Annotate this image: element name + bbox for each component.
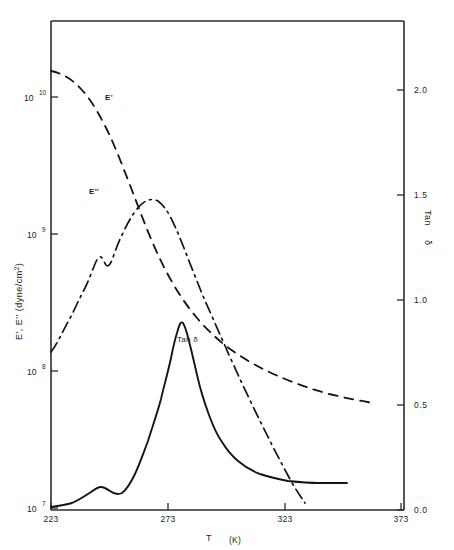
chart-background	[0, 0, 454, 550]
y-tick-label-1e10-exp: 10	[39, 89, 47, 96]
curve-label-e-double-prime: E''	[89, 187, 99, 196]
x-axis-title-unit: (K)	[229, 535, 241, 545]
y-tick-label-1e9-exp: 9	[42, 226, 46, 233]
y-tick-label-1e7-exp: 7	[42, 500, 46, 507]
y2-tick-label-1-0: 1.0	[414, 295, 428, 305]
y-axis-right-title-tan: Tan	[423, 210, 433, 226]
x-tick-label-223: 223	[44, 514, 59, 524]
y2-tick-label-2-0: 2.0	[414, 85, 428, 95]
y-tick-label-1e8-exp: 8	[42, 363, 46, 370]
curve-label-e-prime: E'	[105, 93, 113, 102]
dma-chart-figure: 10 10 10 9 10 8 10 7 E', E'' (dyne/cm2) …	[0, 0, 454, 550]
y-tick-label-1e7-base: 10	[27, 504, 37, 514]
x-tick-label-273: 273	[161, 514, 176, 524]
y-tick-label-1e9-base: 10	[27, 230, 37, 240]
y-tick-label-1e10-base: 10	[24, 93, 34, 103]
x-tick-label-323: 323	[278, 514, 293, 524]
y-axis-left-title-group: E', E'' (dyne/cm2)	[13, 263, 24, 340]
y2-tick-label-1-5: 1.5	[414, 190, 428, 200]
y-axis-right-title-delta: δ	[423, 240, 433, 246]
x-tick-label-373: 373	[394, 514, 409, 524]
y-tick-label-1e8-base: 10	[27, 367, 37, 377]
curve-label-tan-delta: Tan δ	[177, 335, 198, 344]
y2-tick-label-0-0: 0.0	[414, 505, 428, 515]
y2-tick-label-0-5: 0.5	[414, 400, 428, 410]
x-axis-title-symbol: T	[206, 533, 212, 543]
y-axis-left-title: E', E'' (dyne/cm2)	[13, 263, 24, 340]
chart-svg: 10 10 10 9 10 8 10 7 E', E'' (dyne/cm2) …	[0, 0, 454, 550]
